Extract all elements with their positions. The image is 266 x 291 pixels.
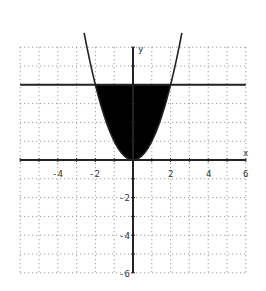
y-tick-label-minus-2: -2 — [119, 193, 130, 203]
y-axis-label: y — [138, 44, 144, 54]
parabola-region-plot: -4 -2 2 4 6 -2 -4 -6 x y — [0, 0, 266, 291]
x-tick-label-minus-4: -4 — [52, 169, 63, 179]
x-tick-label-2: 2 — [168, 169, 173, 179]
y-tick-label-minus-6: -6 — [119, 269, 130, 279]
y-tick-label-minus-4: -4 — [119, 231, 130, 241]
x-axis-label: x — [243, 148, 249, 158]
x-tick-label-6: 6 — [243, 169, 248, 179]
x-tick-label-minus-2: -2 — [89, 169, 100, 179]
x-tick-label-4: 4 — [206, 169, 211, 179]
